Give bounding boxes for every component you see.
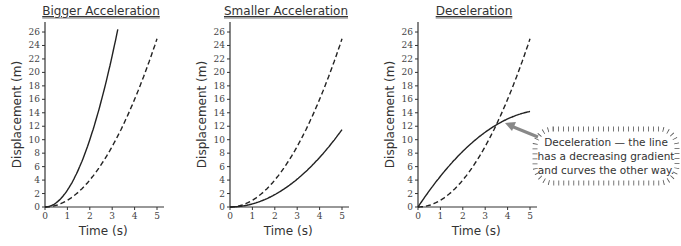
x-tick-label: 3 bbox=[482, 211, 488, 221]
y-tick-label: 8 bbox=[34, 148, 40, 158]
y-tick-label: 0 bbox=[34, 202, 40, 212]
y-tick-label: 24 bbox=[29, 40, 41, 50]
y-tick-label: 6 bbox=[219, 162, 225, 172]
y-tick-label: 10 bbox=[29, 135, 41, 145]
x-tick-label: 4 bbox=[317, 211, 323, 221]
y-tick-label: 12 bbox=[214, 121, 225, 131]
y-tick-label: 2 bbox=[219, 189, 225, 199]
x-tick-label: 3 bbox=[294, 211, 300, 221]
data-line-solid bbox=[230, 130, 342, 207]
y-tick-label: 26 bbox=[214, 27, 226, 37]
reference-line-dashed bbox=[230, 39, 342, 207]
y-tick-label: 4 bbox=[407, 175, 413, 185]
y-tick-label: 4 bbox=[34, 175, 40, 185]
y-tick-label: 20 bbox=[29, 67, 41, 77]
y-tick-label: 14 bbox=[29, 108, 41, 118]
x-tick-label: 4 bbox=[505, 211, 511, 221]
callout-text-line: and curves the other way. bbox=[538, 164, 674, 176]
y-tick-label: 8 bbox=[219, 148, 225, 158]
chart-title: Smaller Acceleration bbox=[224, 4, 348, 18]
x-tick-label: 5 bbox=[154, 211, 160, 221]
x-tick-label: 5 bbox=[527, 211, 533, 221]
y-tick-label: 22 bbox=[214, 54, 225, 64]
y-tick-label: 14 bbox=[402, 108, 414, 118]
x-tick-label: 1 bbox=[250, 211, 256, 221]
y-axis-label: Displacement (m) bbox=[383, 61, 397, 168]
callout-text-line: has a decreasing gradient bbox=[538, 150, 675, 162]
x-tick-label: 0 bbox=[415, 211, 421, 221]
chart-title: Bigger Acceleration bbox=[42, 4, 160, 18]
y-tick-label: 10 bbox=[214, 135, 226, 145]
chart-figure: Bigger Acceleration024681012141618202224… bbox=[0, 0, 681, 246]
y-tick-label: 24 bbox=[402, 40, 414, 50]
y-tick-label: 16 bbox=[402, 94, 414, 104]
reference-line-dashed bbox=[45, 39, 157, 207]
y-tick-label: 10 bbox=[402, 135, 414, 145]
x-tick-label: 5 bbox=[339, 211, 345, 221]
y-axis-label: Displacement (m) bbox=[10, 61, 24, 168]
chart-panel-2: Smaller Acceleration02468101214161820222… bbox=[195, 4, 349, 238]
x-axis-label: Time (s) bbox=[451, 224, 501, 238]
y-tick-label: 2 bbox=[407, 189, 413, 199]
y-tick-label: 6 bbox=[34, 162, 40, 172]
y-tick-label: 8 bbox=[407, 148, 413, 158]
y-tick-label: 22 bbox=[29, 54, 40, 64]
arrow-icon bbox=[511, 126, 538, 137]
x-tick-label: 4 bbox=[132, 211, 138, 221]
y-tick-label: 18 bbox=[29, 81, 41, 91]
x-tick-label: 2 bbox=[272, 211, 278, 221]
y-tick-label: 24 bbox=[214, 40, 226, 50]
y-tick-label: 26 bbox=[29, 27, 41, 37]
y-tick-label: 22 bbox=[402, 54, 413, 64]
x-tick-label: 1 bbox=[438, 211, 444, 221]
x-tick-label: 1 bbox=[65, 211, 71, 221]
x-tick-label: 0 bbox=[227, 211, 233, 221]
y-tick-label: 18 bbox=[214, 81, 226, 91]
deceleration-callout: Deceleration — the linehas a decreasing … bbox=[505, 122, 677, 183]
x-tick-label: 3 bbox=[109, 211, 115, 221]
y-tick-label: 16 bbox=[214, 94, 226, 104]
chart-panel-3: Deceleration0246810121416182022242601234… bbox=[383, 4, 537, 238]
y-tick-label: 16 bbox=[29, 94, 41, 104]
x-axis-label: Time (s) bbox=[263, 224, 313, 238]
y-tick-label: 4 bbox=[219, 175, 225, 185]
x-axis-label: Time (s) bbox=[78, 224, 128, 238]
y-tick-label: 14 bbox=[214, 108, 226, 118]
y-tick-label: 2 bbox=[34, 189, 40, 199]
y-tick-label: 20 bbox=[214, 67, 226, 77]
callout-text-line: Deceleration — the line bbox=[544, 136, 668, 148]
x-tick-label: 0 bbox=[42, 211, 48, 221]
y-tick-label: 6 bbox=[407, 162, 413, 172]
x-tick-label: 2 bbox=[460, 211, 466, 221]
y-tick-label: 0 bbox=[407, 202, 413, 212]
y-tick-label: 26 bbox=[402, 27, 414, 37]
chart-title: Deceleration bbox=[436, 4, 513, 18]
y-tick-label: 18 bbox=[402, 81, 414, 91]
data-line-solid bbox=[45, 29, 118, 207]
x-tick-label: 2 bbox=[87, 211, 93, 221]
y-tick-label: 12 bbox=[29, 121, 40, 131]
y-tick-label: 20 bbox=[402, 67, 414, 77]
y-axis-label: Displacement (m) bbox=[195, 61, 209, 168]
chart-panel-1: Bigger Acceleration024681012141618202224… bbox=[10, 4, 164, 238]
y-tick-label: 0 bbox=[219, 202, 225, 212]
y-tick-label: 12 bbox=[402, 121, 413, 131]
